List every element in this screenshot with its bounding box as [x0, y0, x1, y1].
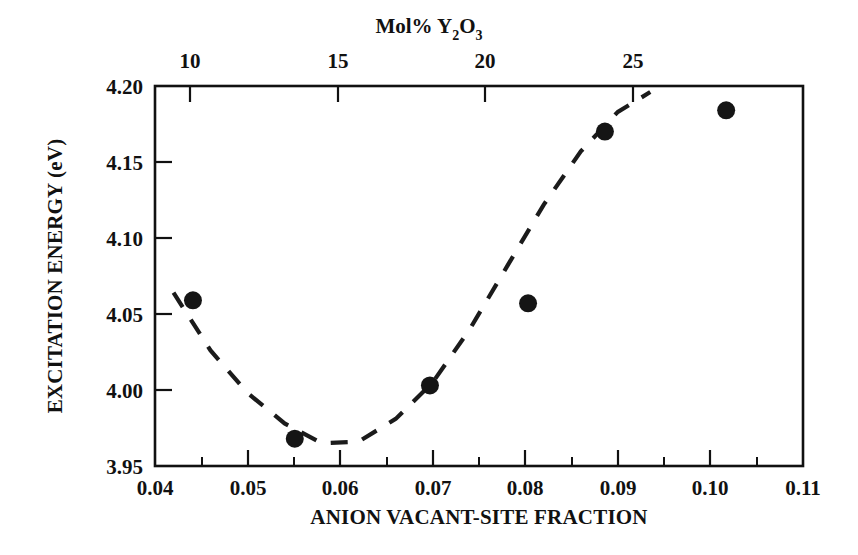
data-point: [717, 101, 735, 119]
x-tick-label: 0.08: [507, 476, 544, 500]
x-tick-label: 0.10: [692, 476, 729, 500]
data-layer: [174, 92, 736, 448]
data-point: [421, 376, 439, 394]
y-tick-label: 4.05: [106, 303, 143, 327]
data-markers: [184, 101, 735, 447]
x-tick-label: 0.11: [785, 476, 821, 500]
top-axis-title-mid: O: [459, 14, 475, 38]
top-tick-labels: 10 15 20 25: [180, 49, 644, 73]
top-axis-title-sub2: 3: [476, 28, 483, 43]
x-axis-title: ANION VACANT-SITE FRACTION: [310, 505, 647, 529]
top-axis-title-sub1: 2: [452, 28, 459, 43]
top-tick-label: 25: [623, 49, 644, 73]
top-axis-title-prefix: Mol% Y: [375, 14, 452, 38]
top-ticks: [190, 86, 633, 102]
chart-svg: Mol% Y2O3 10 15 20 25: [0, 0, 858, 555]
data-point: [596, 123, 614, 141]
x-ticks-minor: [202, 457, 757, 466]
y-tick-label: 4.15: [106, 151, 143, 175]
x-tick-label: 0.07: [415, 476, 452, 500]
y-tick-labels: 4.20 4.15 4.10 4.05 4.00 3.95: [106, 75, 143, 479]
x-tick-label: 0.04: [137, 476, 174, 500]
x-tick-label: 0.06: [322, 476, 359, 500]
chart-figure: Mol% Y2O3 10 15 20 25: [0, 0, 858, 555]
y-tick-label: 4.00: [106, 379, 143, 403]
top-axis-title: Mol% Y2O3: [375, 14, 482, 43]
top-tick-label: 15: [328, 49, 349, 73]
x-tick-label: 0.09: [600, 476, 637, 500]
plot-frame: [155, 86, 803, 466]
top-tick-label: 20: [475, 49, 496, 73]
data-point: [286, 430, 304, 448]
data-point: [184, 291, 202, 309]
fit-curve-dashed: [174, 92, 651, 443]
x-tick-label: 0.05: [230, 476, 267, 500]
y-ticks: [155, 162, 172, 390]
y-tick-label: 4.10: [106, 227, 143, 251]
y-axis-title: EXCITATION ENERGY (eV): [43, 139, 67, 414]
top-tick-label: 10: [180, 49, 201, 73]
data-point: [519, 294, 537, 312]
y-tick-label: 4.20: [106, 75, 143, 99]
x-tick-labels: 0.04 0.05 0.06 0.07 0.08 0.09 0.10 0.11: [137, 476, 821, 500]
